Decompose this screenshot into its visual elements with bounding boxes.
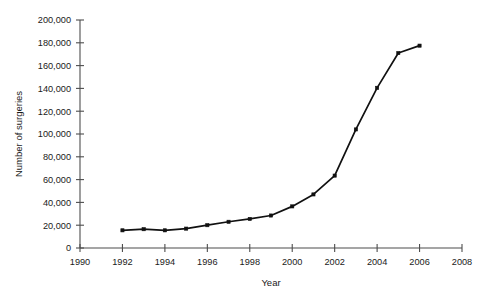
x-tick-label: 1994 [155,257,175,267]
data-point-marker: 1992: 15,500 [121,229,124,232]
data-point-marker: 2001: 47,000 [312,193,315,196]
surgeries-line-chart: 020,00040,00060,00080,000100,000120,0001… [0,0,494,296]
data-point-marker: 1995: 17,000 [185,227,188,230]
x-axis-title: Year [261,277,280,288]
y-tick-label: 180,000 [38,38,71,48]
y-axis-tick-group: 020,00040,00060,00080,000100,000120,0001… [38,15,84,253]
data-point-marker: 1994: 15,500 [163,229,166,232]
y-tick-label: 120,000 [38,107,71,117]
chart-canvas: 020,00040,00060,00080,000100,000120,0001… [0,0,494,296]
y-tick-label: 80,000 [43,152,71,162]
y-tick-label: 0 [66,243,71,253]
data-point-marker: 1997: 23,000 [227,220,230,223]
y-axis-title: Number of surgeries [13,91,24,177]
x-tick-label: 1996 [197,257,217,267]
y-tick-label: 200,000 [38,15,71,25]
x-tick-label: 2002 [324,257,344,267]
x-tick-label: 2008 [452,257,472,267]
data-point-marker: 1999: 28,500 [269,214,272,217]
data-point-marker: 2002: 63,500 [333,174,336,177]
x-tick-label: 1998 [240,257,260,267]
data-series-line [122,46,419,231]
data-point-marker: 1996: 20,000 [206,224,209,227]
data-point-markers: 1992: 15,5001993: 16,5001994: 15,5001995… [121,44,421,232]
y-tick-label: 40,000 [43,198,71,208]
data-point-marker: 2006: 177,500 [418,44,421,47]
x-tick-label: 2004 [367,257,387,267]
y-tick-label: 160,000 [38,61,71,71]
x-tick-label: 2000 [282,257,302,267]
data-point-marker: 2005: 171,000 [397,51,400,54]
data-point-marker: 2000: 36,500 [291,205,294,208]
data-point-marker: 1998: 25,500 [248,217,251,220]
data-point-marker: 2004: 140,500 [376,86,379,89]
data-point-marker: 1993: 16,500 [142,228,145,231]
x-tick-label: 1990 [70,257,90,267]
x-tick-label: 1992 [112,257,132,267]
y-tick-label: 20,000 [43,221,71,231]
y-tick-label: 140,000 [38,84,71,94]
y-tick-label: 60,000 [43,175,71,185]
x-tick-label: 2006 [409,257,429,267]
y-tick-label: 100,000 [38,129,71,139]
data-point-marker: 2003: 104,000 [354,128,357,131]
